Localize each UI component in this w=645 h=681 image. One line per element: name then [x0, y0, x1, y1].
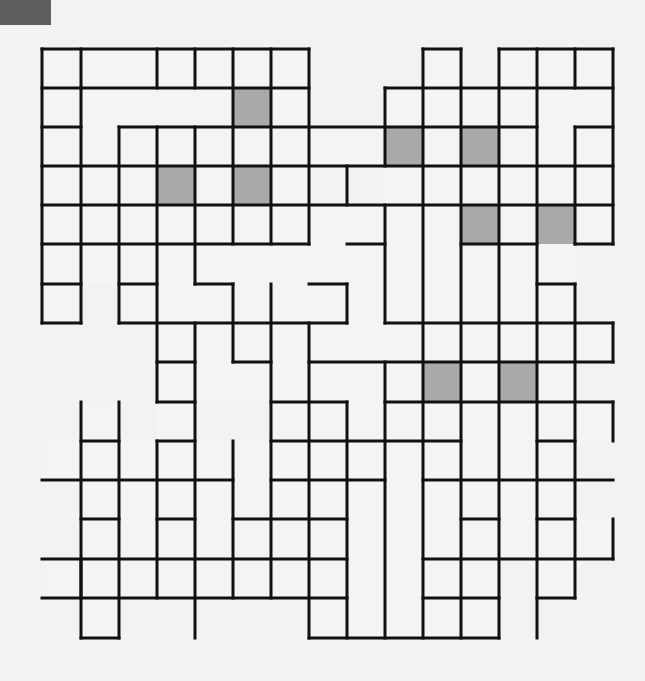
grid-cell[interactable] [233, 519, 271, 559]
grid-cell[interactable] [575, 127, 613, 166]
grid-cell[interactable] [42, 244, 81, 284]
grid-cell[interactable] [195, 284, 233, 323]
grid-cell[interactable] [575, 519, 613, 559]
grid-cell[interactable] [233, 244, 271, 284]
grid-cell[interactable] [461, 166, 499, 205]
grid-cell[interactable] [233, 284, 271, 323]
grid-cell[interactable] [157, 244, 195, 284]
grid-cell[interactable] [119, 559, 157, 598]
grid-cell[interactable] [271, 519, 309, 559]
grid-cell[interactable] [537, 441, 575, 480]
grid-cell[interactable] [119, 519, 157, 559]
grid-cell[interactable] [499, 49, 537, 88]
grid-cell[interactable] [499, 127, 537, 166]
grid-cell[interactable] [423, 480, 461, 519]
grid-cell[interactable] [499, 323, 537, 362]
grid-cell[interactable] [461, 362, 499, 402]
grid-cell[interactable] [157, 127, 195, 166]
grid-cell[interactable] [195, 166, 233, 205]
grid-cell[interactable] [42, 49, 81, 88]
grid-cell[interactable] [157, 284, 195, 323]
grid-cell[interactable] [157, 519, 195, 559]
grid-cell[interactable] [347, 402, 385, 441]
grid-cell[interactable] [271, 323, 309, 362]
grid-cell[interactable] [42, 441, 81, 480]
grid-cell[interactable] [119, 166, 157, 205]
grid-cell[interactable] [233, 559, 271, 598]
grid-cell[interactable] [347, 205, 385, 244]
grid-cell[interactable] [575, 49, 613, 88]
grid-cell[interactable] [423, 402, 461, 441]
grid-cell[interactable] [271, 88, 309, 127]
grid-cell[interactable] [271, 127, 309, 166]
grid-cell[interactable] [537, 323, 575, 362]
grid-cell[interactable] [461, 519, 499, 559]
grid-cell[interactable] [347, 441, 385, 480]
grid-cell[interactable] [347, 559, 385, 598]
grid-cell[interactable] [347, 598, 385, 638]
grid-cell[interactable] [385, 284, 423, 323]
grid-cell[interactable] [119, 244, 157, 284]
grid-cell[interactable] [423, 323, 461, 362]
grid-cell[interactable] [81, 205, 119, 244]
grid-cell[interactable] [499, 441, 537, 480]
grid-cell[interactable] [499, 519, 537, 559]
grid-cell[interactable] [423, 441, 461, 480]
grid-cell[interactable] [81, 480, 119, 519]
grid-cell[interactable] [309, 402, 347, 441]
grid-cell[interactable] [385, 480, 423, 519]
grid-cell[interactable] [461, 559, 499, 598]
crossword-grid[interactable] [0, 0, 645, 681]
grid-cell[interactable] [537, 88, 575, 127]
grid-cell[interactable] [499, 402, 537, 441]
grid-cell[interactable] [119, 127, 157, 166]
grid-cell[interactable] [499, 166, 537, 205]
grid-cell[interactable] [233, 49, 271, 88]
grid-cell[interactable] [271, 441, 309, 480]
grid-cell[interactable] [499, 480, 537, 519]
grid-cell[interactable] [309, 441, 347, 480]
grid-cell[interactable] [157, 402, 195, 441]
grid-cell[interactable] [461, 598, 499, 638]
grid-cell[interactable] [423, 49, 461, 88]
grid-cell[interactable] [195, 127, 233, 166]
grid-cell[interactable] [461, 88, 499, 127]
grid-cell[interactable] [385, 598, 423, 638]
grid-cell[interactable] [309, 244, 347, 284]
grid-cell[interactable] [271, 402, 309, 441]
grid-cell[interactable] [537, 284, 575, 323]
grid-cell[interactable] [537, 559, 575, 598]
grid-cell[interactable] [233, 127, 271, 166]
grid-cell[interactable] [233, 480, 271, 519]
grid-cell[interactable] [499, 244, 537, 284]
grid-cell[interactable] [423, 127, 461, 166]
grid-cell[interactable] [499, 205, 537, 244]
grid-cell[interactable] [461, 402, 499, 441]
grid-cell[interactable] [461, 244, 499, 284]
grid-cell[interactable] [423, 519, 461, 559]
grid-cell[interactable] [119, 88, 157, 127]
grid-cell[interactable] [423, 88, 461, 127]
grid-cell[interactable] [195, 480, 233, 519]
grid-cell[interactable] [423, 598, 461, 638]
grid-cell[interactable] [119, 205, 157, 244]
grid-cell[interactable] [575, 402, 613, 441]
grid-cell[interactable] [81, 127, 119, 166]
grid-cell[interactable] [309, 519, 347, 559]
grid-cell[interactable] [461, 480, 499, 519]
grid-cell[interactable] [309, 127, 347, 166]
grid-cell[interactable] [347, 362, 385, 402]
grid-cell[interactable] [385, 402, 423, 441]
grid-cell[interactable] [537, 166, 575, 205]
grid-cell[interactable] [271, 480, 309, 519]
grid-cell[interactable] [347, 244, 385, 284]
grid-cell[interactable] [271, 49, 309, 88]
grid-cell[interactable] [81, 559, 119, 598]
grid-cell[interactable] [119, 49, 157, 88]
grid-cell[interactable] [499, 88, 537, 127]
grid-cell[interactable] [233, 441, 271, 480]
grid-cell[interactable] [81, 402, 119, 441]
grid-cell[interactable] [271, 284, 309, 323]
grid-cell[interactable] [195, 244, 233, 284]
grid-cell[interactable] [157, 88, 195, 127]
